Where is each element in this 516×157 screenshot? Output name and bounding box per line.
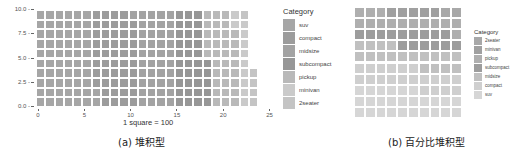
waffle-square xyxy=(55,78,64,88)
x-axis-label: 1 square = 100 xyxy=(123,118,173,127)
legend-item-compact: compact xyxy=(283,31,331,44)
waffle-square xyxy=(175,20,184,30)
waffle-square xyxy=(64,29,73,39)
waffle-square xyxy=(440,51,451,62)
waffle-square xyxy=(221,78,230,88)
waffle-square xyxy=(230,39,239,49)
waffle-square xyxy=(397,107,408,118)
waffle-square xyxy=(249,88,258,98)
waffle-square xyxy=(166,29,175,39)
waffle-square xyxy=(101,49,110,59)
waffle-square xyxy=(203,78,212,88)
waffle-square xyxy=(430,74,441,85)
waffle-square xyxy=(386,96,397,107)
waffle-square xyxy=(45,97,54,107)
waffle-square xyxy=(203,59,212,69)
waffle-square xyxy=(365,7,376,18)
waffle-square xyxy=(365,51,376,62)
waffle-square xyxy=(110,97,119,107)
waffle-square xyxy=(419,40,430,51)
legend-swatch xyxy=(474,73,482,81)
waffle-square xyxy=(55,39,64,49)
waffle-square xyxy=(156,29,165,39)
waffle-square xyxy=(240,29,249,39)
waffle-square xyxy=(193,39,202,49)
legend-swatch xyxy=(283,19,295,31)
waffle-square xyxy=(249,78,258,88)
waffle-square xyxy=(147,68,156,78)
waffle-square xyxy=(386,51,397,62)
y-tick-label: 10.0 - xyxy=(4,6,30,12)
waffle-square xyxy=(110,68,119,78)
legend-label: 2seater xyxy=(299,100,319,106)
waffle-square xyxy=(147,10,156,20)
waffle-square xyxy=(376,96,387,107)
waffle-square xyxy=(55,68,64,78)
waffle-square xyxy=(175,29,184,39)
x-tick-label: 5 xyxy=(77,112,91,118)
waffle-square xyxy=(386,85,397,96)
legend-item-2seater: 2seater xyxy=(283,96,331,109)
waffle-square xyxy=(156,20,165,30)
waffle-square xyxy=(365,18,376,29)
waffle-square xyxy=(175,68,184,78)
waffle-square xyxy=(36,49,45,59)
legend-swatch xyxy=(474,82,482,90)
waffle-square xyxy=(221,10,230,20)
waffle-square xyxy=(408,107,419,118)
caption-b: (b) 百分比堆积型 xyxy=(388,134,465,149)
waffle-plot-stacked xyxy=(36,10,258,107)
waffle-square xyxy=(36,10,45,20)
waffle-square xyxy=(129,29,138,39)
legend-item-minivan: minivan xyxy=(474,45,509,54)
waffle-square xyxy=(184,88,193,98)
waffle-square xyxy=(221,97,230,107)
waffle-square xyxy=(55,88,64,98)
waffle-square xyxy=(175,10,184,20)
waffle-square xyxy=(419,63,430,74)
waffle-square xyxy=(376,29,387,40)
waffle-square xyxy=(184,10,193,20)
waffle-square xyxy=(156,68,165,78)
waffle-square xyxy=(440,18,451,29)
waffle-square xyxy=(376,51,387,62)
waffle-square xyxy=(354,51,365,62)
waffle-square xyxy=(212,29,221,39)
waffle-square xyxy=(129,10,138,20)
waffle-square xyxy=(212,59,221,69)
waffle-square xyxy=(408,18,419,29)
waffle-square xyxy=(212,10,221,20)
waffle-square xyxy=(101,97,110,107)
waffle-square xyxy=(430,7,441,18)
waffle-square xyxy=(354,85,365,96)
waffle-square xyxy=(119,78,128,88)
waffle-square xyxy=(203,39,212,49)
legend-swatch xyxy=(474,46,482,54)
legend-label: suv xyxy=(299,22,308,28)
waffle-square xyxy=(110,88,119,98)
waffle-square xyxy=(419,85,430,96)
waffle-square xyxy=(430,96,441,107)
waffle-square xyxy=(230,29,239,39)
waffle-square xyxy=(365,96,376,107)
legend-label: suv xyxy=(485,92,492,97)
waffle-square xyxy=(166,49,175,59)
waffle-square xyxy=(451,107,462,118)
waffle-square xyxy=(354,107,365,118)
waffle-square xyxy=(376,107,387,118)
waffle-square xyxy=(73,39,82,49)
legend-swatch xyxy=(283,71,295,83)
waffle-square xyxy=(230,68,239,78)
waffle-square xyxy=(419,18,430,29)
waffle-square xyxy=(408,96,419,107)
waffle-square xyxy=(73,10,82,20)
waffle-square xyxy=(221,20,230,30)
legend-item-suv: suv xyxy=(283,18,331,31)
legend-title: Category xyxy=(474,29,509,35)
waffle-square xyxy=(92,78,101,88)
waffle-square xyxy=(110,49,119,59)
waffle-square xyxy=(193,59,202,69)
waffle-square xyxy=(430,18,441,29)
legend-label: pickup xyxy=(299,74,316,80)
waffle-square xyxy=(55,10,64,20)
